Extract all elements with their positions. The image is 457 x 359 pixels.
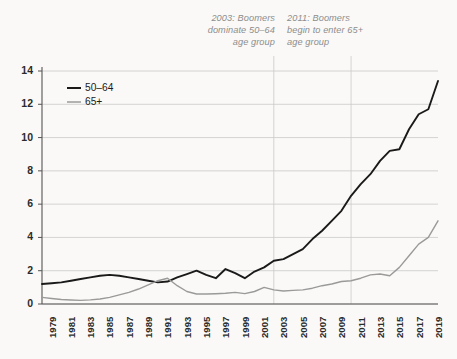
x-tick-label-2013: 2013 [375, 317, 386, 338]
x-tick-label-1991: 1991 [162, 317, 173, 338]
x-tick-label-1995: 1995 [201, 317, 212, 338]
x-tick-label-2017: 2017 [414, 317, 425, 338]
y-tick-label-0: 0 [11, 297, 33, 309]
x-tick-label-2011: 2011 [356, 317, 367, 338]
series-line-50-64 [42, 81, 438, 284]
x-tick-label-1983: 1983 [85, 317, 96, 338]
x-tick-label-1987: 1987 [124, 317, 135, 338]
x-tick-label-2001: 2001 [259, 317, 270, 338]
legend-swatches [67, 88, 81, 102]
data-series [42, 81, 438, 300]
y-tick-label-10: 10 [11, 131, 33, 143]
x-tick-label-2003: 2003 [278, 317, 289, 338]
annotation-2003: 2003: Boomers dominate 50–64 age group [168, 12, 275, 49]
plot-area [0, 0, 457, 359]
x-tick-label-1999: 1999 [240, 317, 251, 338]
x-tick-label-1979: 1979 [47, 317, 58, 338]
legend-label-50-64: 50–64 [85, 82, 113, 93]
y-tick-label-12: 12 [11, 97, 33, 109]
line-chart: 2003: Boomers dominate 50–64 age group 2… [0, 0, 457, 359]
x-tick-label-2007: 2007 [317, 317, 328, 338]
y-tick-label-4: 4 [11, 230, 33, 242]
legend-label-65plus: 65+ [85, 96, 102, 107]
y-tick-label-2: 2 [11, 264, 33, 276]
x-tick-label-1989: 1989 [143, 317, 154, 338]
x-tick-label-1997: 1997 [220, 317, 231, 338]
x-tick-label-1993: 1993 [182, 317, 193, 338]
x-tick-label-1981: 1981 [66, 317, 77, 338]
x-tick-label-2009: 2009 [336, 317, 347, 338]
x-tick-label-1985: 1985 [104, 317, 115, 338]
y-tick-label-8: 8 [11, 164, 33, 176]
annotation-2011: 2011: Boomers begin to enter 65+ age gro… [287, 12, 402, 49]
series-line-65plus [42, 221, 438, 301]
y-tick-label-14: 14 [11, 64, 33, 76]
x-tick-label-2019: 2019 [433, 317, 444, 338]
reference-lines [274, 56, 351, 304]
x-tick-label-2005: 2005 [298, 317, 309, 338]
x-tick-label-2015: 2015 [394, 317, 405, 338]
y-tick-label-6: 6 [11, 197, 33, 209]
